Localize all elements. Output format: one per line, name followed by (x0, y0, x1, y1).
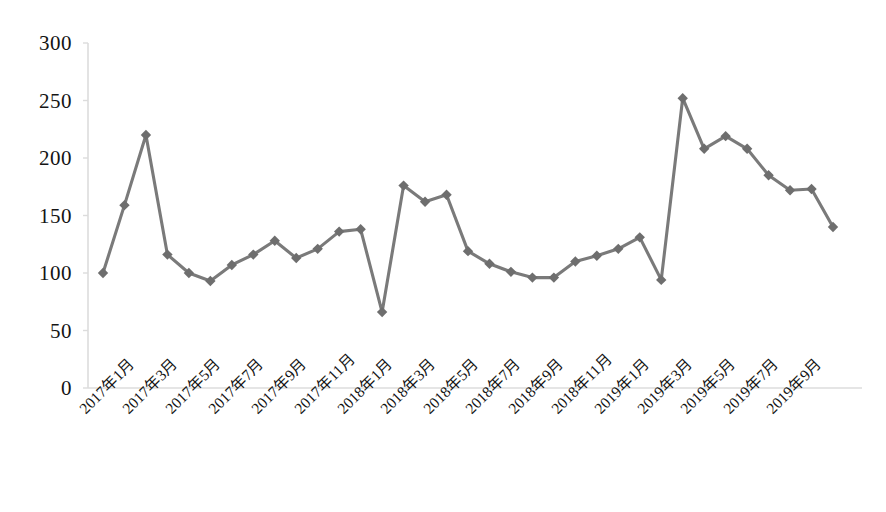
data-point-marker (141, 130, 151, 140)
line-chart: 300250200150100500 2017年1月2017年3月2017年5月… (0, 0, 886, 512)
data-point-marker (377, 307, 387, 317)
y-axis-tick-label: 0 (22, 376, 72, 401)
data-point-marker (355, 224, 365, 234)
data-point-marker (119, 200, 129, 210)
y-axis-tick-label: 50 (22, 319, 72, 344)
data-point-marker (592, 251, 602, 261)
data-point-marker (678, 93, 688, 103)
data-point-marker (441, 190, 451, 200)
y-axis-tick-label: 150 (22, 204, 72, 229)
y-axis-tick-label: 250 (22, 89, 72, 114)
data-series (98, 93, 838, 317)
series-markers (98, 93, 838, 317)
data-point-marker (506, 267, 516, 277)
y-axis-tick-label: 300 (22, 31, 72, 56)
data-point-marker (527, 272, 537, 282)
y-axis-tick-label: 200 (22, 146, 72, 171)
chart-axes (83, 43, 862, 388)
chart-plot-area (0, 0, 886, 512)
data-point-marker (656, 275, 666, 285)
y-axis-tick-label: 100 (22, 261, 72, 286)
data-point-marker (98, 268, 108, 278)
